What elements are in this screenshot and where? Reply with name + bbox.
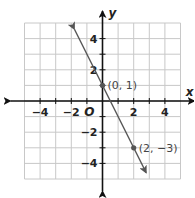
axes	[11, 11, 195, 191]
data-point	[131, 145, 136, 150]
y-axis-label: y	[109, 6, 118, 20]
x-tick-label: −4	[32, 106, 49, 119]
point-label: (0, 1)	[108, 79, 138, 92]
y-tick-label: 2	[90, 64, 98, 77]
origin-label: O	[84, 105, 94, 119]
y-tick-label: −2	[81, 126, 98, 139]
x-axis-label: x	[185, 85, 194, 99]
y-tick-label: 4	[90, 33, 98, 46]
y-tick-label: −4	[81, 157, 98, 170]
coordinate-plane: −4−22442−2−4Oxy (0, 1)(2, −3)	[0, 0, 194, 198]
data-point	[100, 83, 105, 88]
x-tick-label: 2	[130, 106, 138, 119]
x-tick-label: −2	[63, 106, 80, 119]
point-label: (2, −3)	[139, 142, 178, 155]
x-tick-label: 4	[161, 106, 169, 119]
